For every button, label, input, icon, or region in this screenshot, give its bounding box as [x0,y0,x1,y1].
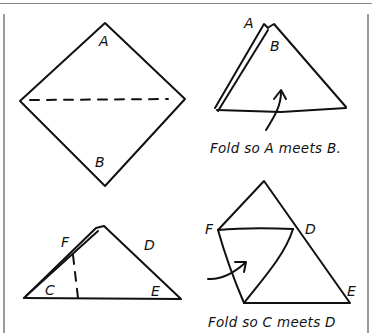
step2-caption: Fold so A meets B. [210,142,341,156]
label-f-step4: F [205,222,213,236]
label-e-step4: E [347,284,356,298]
label-a: A [99,34,109,48]
label-d-step4: D [305,222,316,236]
back-flap-edge [215,24,268,108]
label-b-front: B [270,39,280,53]
label-d: D [144,238,155,252]
step4-triangle [208,181,350,303]
step4-top-fold [218,228,293,230]
step2-triangle [215,24,346,130]
label-a-flap: A [244,16,254,30]
step4-inner-edge [244,229,293,303]
label-e: E [151,284,160,298]
step3-fold-line [73,255,78,298]
label-c: C [45,283,55,297]
step4-arrow-shaft [208,263,245,279]
step4-caption: Fold so C meets D [208,316,336,330]
step2-base [217,108,346,112]
fold-diagram [0,0,372,333]
step4-outline [218,181,350,303]
label-b: B [95,155,105,169]
label-f: F [61,235,69,249]
step1-fold-line [30,99,168,100]
